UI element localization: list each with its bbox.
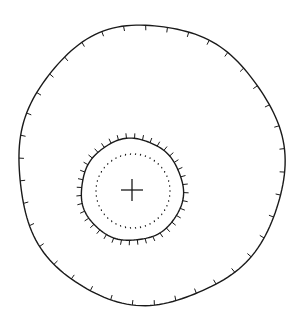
outer-contour-line: [19, 25, 285, 306]
center-cross-icon: [121, 179, 143, 201]
dotted-circle: [96, 153, 170, 228]
diagram-canvas: [0, 0, 296, 322]
